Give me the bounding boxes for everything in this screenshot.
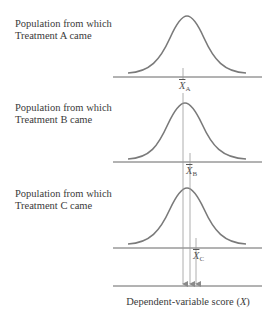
normal-curve-b	[128, 103, 246, 159]
axis-label-suffix: )	[246, 296, 250, 307]
mean-label-a: XA	[178, 80, 191, 93]
mean-subscript-a: A	[185, 85, 190, 93]
axis-label: Dependent-variable score (X)	[113, 296, 263, 307]
normal-curve-c	[128, 188, 246, 244]
mean-label-c: XC	[193, 250, 204, 263]
axis-label-prefix: Dependent-variable score (	[126, 296, 240, 307]
mean-subscript-c: C	[199, 255, 204, 263]
mean-label-b: XB	[186, 165, 197, 178]
normal-curve-a	[128, 16, 246, 73]
distribution-diagram	[0, 0, 275, 317]
mean-subscript-b: B	[192, 170, 197, 178]
